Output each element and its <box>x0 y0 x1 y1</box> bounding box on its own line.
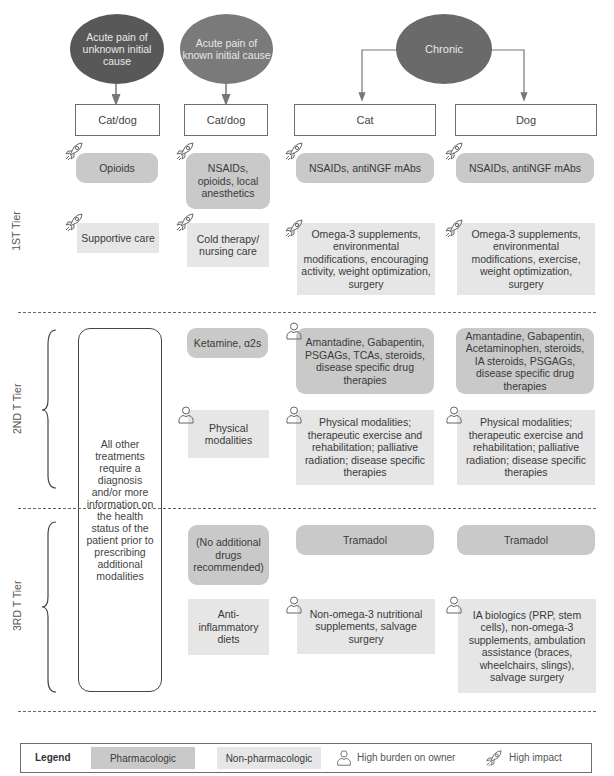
header-chronic-cat: Cat <box>294 104 436 136</box>
oval-acute-unknown: Acute pain of unknown initial cause <box>70 14 164 84</box>
person-icon <box>335 749 353 767</box>
acute-unknown-note: All other treatments require a diagnosis… <box>78 328 162 692</box>
legend-non-pharmacologic: Non-pharmacologic <box>217 747 321 769</box>
person-icon <box>176 405 196 425</box>
brace-2nd-tier <box>42 330 56 488</box>
rocket-icon <box>485 749 503 767</box>
t1-cat-pharm: NSAIDs, antiNGF mAbs <box>296 153 434 183</box>
oval-chronic: Chronic <box>396 14 492 84</box>
rocket-icon <box>444 218 464 238</box>
person-icon <box>284 405 304 425</box>
t3-dog-nonpharm: IA biologics (PRP, stem cells), non-omeg… <box>458 599 596 693</box>
oval-acute-known: Acute pain of known initial cause <box>180 14 273 84</box>
t2-cat-nonpharm: Physical modalities; therapeutic exercis… <box>296 410 434 485</box>
t1-acute-unknown-pharm: Opioids <box>76 153 158 183</box>
header-acute-unknown-catdog: Cat/dog <box>75 104 160 136</box>
t3-cat-nonpharm: Non-omega-3 nutritional supplements, sal… <box>297 599 435 654</box>
legend-pharmacologic: Pharmacologic <box>91 747 195 769</box>
tier-label-2nd: 2ND T Tier <box>11 384 23 434</box>
t1-acute-known-pharm: NSAIDs, opioids, local anesthetics <box>186 153 270 209</box>
t2-acute-known-nonpharm: Physical modalities <box>188 410 269 458</box>
t3-acute-known-pharm: (No additional drugs recommended) <box>188 525 269 585</box>
brace-3rd-tier <box>42 522 56 692</box>
person-icon <box>284 595 304 615</box>
rocket-icon <box>64 212 84 232</box>
tier-divider-1 <box>18 312 596 313</box>
tier-divider-2 <box>18 508 596 509</box>
t3-cat-pharm: Tramadol <box>296 525 434 555</box>
header-acute-known-catdog: Cat/dog <box>184 104 268 136</box>
legend-burden: High burden on owner <box>357 752 455 763</box>
t2-dog-pharm: Amantadine, Gabapentin, Acetaminophen, s… <box>456 328 594 394</box>
t2-acute-known-pharm: Ketamine, α2s <box>187 328 268 358</box>
t1-dog-nonpharm: Omega-3 supplements, environmental modif… <box>457 223 595 295</box>
header-chronic-dog: Dog <box>455 104 597 136</box>
rocket-icon <box>284 218 304 238</box>
legend-title: Legend <box>35 752 71 763</box>
legend: Legend Pharmacologic Non-pharmacologic H… <box>20 743 592 773</box>
t1-acute-known-nonpharm: Cold therapy/ nursing care <box>187 223 269 267</box>
person-icon <box>444 405 464 425</box>
rocket-icon <box>64 141 84 161</box>
rocket-icon <box>284 141 304 161</box>
t3-dog-pharm: Tramadol <box>457 525 595 555</box>
t3-acute-known-nonpharm: Anti-inflammatory diets <box>188 599 269 655</box>
rocket-icon <box>175 141 195 161</box>
tier-label-1st: 1ST Tier <box>10 211 22 251</box>
t1-acute-unknown-nonpharm: Supportive care <box>77 223 159 253</box>
person-icon <box>284 321 304 341</box>
legend-impact: High impact <box>509 752 562 763</box>
t2-dog-nonpharm: Physical modalities; therapeutic exercis… <box>457 410 595 485</box>
rocket-icon <box>444 141 464 161</box>
t1-dog-pharm: NSAIDs, antiNGF mAbs <box>456 153 594 183</box>
t2-cat-pharm: Amantadine, Gabapentin, PSGAGs, TCAs, st… <box>296 328 434 394</box>
t1-cat-nonpharm: Omega-3 supplements, environmental modif… <box>297 223 435 295</box>
tier-divider-3 <box>18 711 596 712</box>
tier-label-3rd: 3RD T Tier <box>11 581 23 631</box>
rocket-icon <box>175 212 195 232</box>
person-icon <box>444 595 464 615</box>
